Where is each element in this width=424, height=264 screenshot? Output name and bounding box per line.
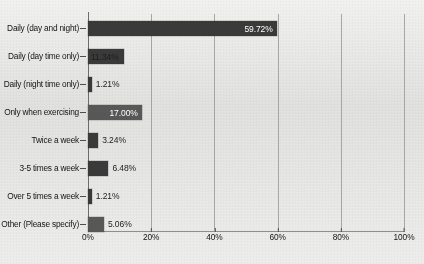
bar-rows: 59.72% 11.34% 1.21% 17.00% [88, 14, 404, 232]
figure-caption [4, 255, 420, 264]
figure-page: Daily (day and night) Daily (day time on… [0, 0, 424, 264]
bar[interactable]: 11.34% [88, 49, 124, 64]
bar-value-label: 1.21% [96, 191, 120, 201]
y-axis-label: Other (Please specify) [1, 210, 79, 238]
x-axis-tick [151, 228, 152, 232]
y-axis-label: Daily (night time only) [4, 70, 79, 98]
x-axis-tick [278, 228, 279, 232]
y-axis-label-text: Daily (day time only) [8, 51, 79, 61]
bar-chart: Daily (day and night) Daily (day time on… [0, 0, 424, 250]
gridline-100 [404, 14, 405, 232]
bar[interactable] [88, 217, 104, 232]
bar-value-label: 3.24% [102, 135, 126, 145]
x-axis-labels: 0% 20% 40% 60% 80% 100% [88, 232, 404, 246]
x-axis-tick [88, 228, 89, 232]
bar-value-label: 17.00% [109, 108, 137, 118]
bar-value-label: 5.06% [108, 219, 132, 229]
x-axis-tick-text: 0% [82, 232, 94, 242]
x-axis-tick-label: 40% [206, 232, 222, 242]
x-axis-tick-label: 80% [333, 232, 349, 242]
y-axis-label: Only when exercising [4, 98, 79, 126]
y-axis-tick [80, 140, 86, 141]
y-axis-label: Daily (day time only) [8, 42, 79, 70]
bar[interactable] [88, 161, 108, 176]
bar-value-label: 1.21% [96, 79, 120, 89]
x-axis-tick [341, 228, 342, 232]
y-axis-label: 3-5 times a week [19, 154, 79, 182]
y-axis-labels: Daily (day and night) Daily (day time on… [0, 14, 88, 232]
x-axis-tick-label: 60% [269, 232, 285, 242]
y-axis-label-text: Other (Please specify) [1, 219, 79, 229]
y-axis-label: Daily (day and night) [7, 14, 79, 42]
bar-row: 59.72% [88, 14, 404, 42]
bar-value-label: 6.48% [112, 163, 136, 173]
x-axis-tick [404, 228, 405, 232]
bar-row: 6.48% [88, 154, 404, 182]
y-axis-label-text: Only when exercising [4, 107, 79, 117]
x-axis-tick-text: 80% [333, 232, 349, 242]
y-axis-label-text: Twice a week [32, 135, 79, 145]
x-axis-tick-label: 100% [394, 232, 415, 242]
bar[interactable] [88, 133, 98, 148]
x-axis-tick-text: 100% [394, 232, 415, 242]
y-axis-label: Over 5 times a week [7, 182, 79, 210]
x-axis-tick-text: 20% [143, 232, 159, 242]
y-axis-label: Twice a week [32, 126, 79, 154]
y-axis-tick [80, 28, 86, 29]
bar-row: 1.21% [88, 182, 404, 210]
y-axis-tick [80, 224, 86, 225]
y-axis-tick [80, 84, 86, 85]
bar-row: 11.34% [88, 42, 404, 70]
y-axis-tick [80, 196, 86, 197]
y-axis-label-text: Daily (day and night) [7, 23, 79, 33]
bar[interactable] [88, 77, 92, 92]
x-axis-tick [214, 228, 215, 232]
bar[interactable] [88, 189, 92, 204]
y-axis-tick [80, 112, 86, 113]
y-axis-tick [80, 168, 86, 169]
y-axis-label-text: Daily (night time only) [4, 79, 79, 89]
bar-row: 3.24% [88, 126, 404, 154]
bar[interactable]: 17.00% [88, 105, 142, 120]
x-axis-tick-text: 60% [269, 232, 285, 242]
plot-area: 59.72% 11.34% 1.21% 17.00% [88, 14, 404, 232]
bar-value-label: 11.34% [91, 52, 119, 62]
x-axis-tick-label: 20% [143, 232, 159, 242]
y-axis-tick [80, 56, 86, 57]
bar-value-label: 59.72% [244, 24, 272, 34]
y-axis-label-text: Over 5 times a week [7, 191, 79, 201]
bar-row: 17.00% [88, 98, 404, 126]
y-axis-label-text: 3-5 times a week [19, 163, 79, 173]
bar[interactable]: 59.72% [88, 21, 277, 36]
x-axis-tick-text: 40% [206, 232, 222, 242]
bar-row: 1.21% [88, 70, 404, 98]
x-axis-tick-label: 0% [82, 232, 94, 242]
